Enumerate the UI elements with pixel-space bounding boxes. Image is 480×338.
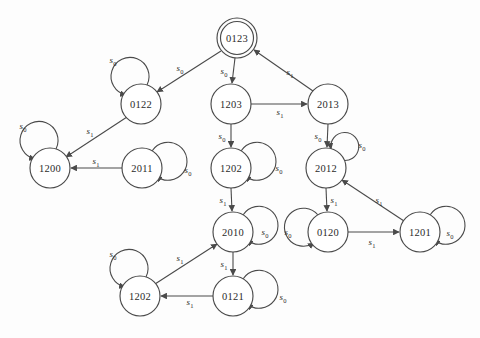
nodes-layer: 0123 0122 1203 2013 1200 2011 [30, 18, 440, 316]
node-1203[interactable]: 1203 [211, 84, 251, 124]
node-0123[interactable]: 0123 [217, 18, 257, 58]
node-1200[interactable]: 1200 [30, 148, 70, 188]
edge-label-1202-2010: s1 [220, 195, 227, 206]
node-label: 1202 [220, 163, 242, 174]
node-2011[interactable]: 2011 [122, 148, 162, 188]
node-1202-mid[interactable]: 1202 [211, 148, 251, 188]
node-label: 1203 [220, 99, 242, 110]
edge-1202b-2010 [155, 244, 217, 284]
selfloop-label-2010: s0 [262, 227, 269, 238]
edge-label-0122-1200: s1 [87, 126, 94, 137]
node-0120[interactable]: 0120 [308, 212, 348, 252]
selfloop-label-0121: s0 [280, 292, 287, 303]
edge-label-2012-0120: s1 [331, 195, 338, 206]
selfloop-label-1202b: s0 [110, 249, 117, 260]
edge-1201-2012 [342, 180, 404, 221]
edge-label-0121-1202b: s1 [187, 297, 194, 308]
edge-label-2013-2012: s0 [315, 131, 322, 142]
selfloop-label-0122: s0 [110, 55, 117, 66]
node-1202-bottom[interactable]: 1202 [120, 276, 160, 316]
state-diagram-canvas: 0123 0122 1203 2013 1200 2011 [0, 0, 480, 338]
node-2012[interactable]: 2012 [306, 148, 346, 188]
node-label: 1200 [39, 163, 61, 174]
edge-2013-0123 [254, 50, 313, 91]
selfloop-label-1202m: s0 [276, 163, 283, 174]
node-label: 0120 [317, 227, 339, 238]
edge-2013-2012 [327, 124, 328, 147]
node-2013[interactable]: 2013 [308, 84, 348, 124]
selfloop-label-0120: s0 [285, 227, 292, 238]
automaton-svg: 0123 0122 1203 2013 1200 2011 [0, 0, 480, 338]
node-label: 1202 [129, 291, 151, 302]
edge-2012-0120 [326, 188, 327, 211]
edge-label-1203-2013: s1 [277, 107, 284, 118]
node-label: 2011 [131, 163, 152, 174]
node-0122[interactable]: 0122 [121, 84, 161, 124]
node-1201[interactable]: 1201 [400, 212, 440, 252]
node-2010[interactable]: 2010 [213, 212, 253, 252]
edge-label-1201-2012: s1 [376, 195, 383, 206]
selfloop-label-2011: s0 [185, 165, 192, 176]
selfloop-label-2012: s0 [359, 140, 366, 151]
edge-label-0123-0122: s0 [177, 63, 184, 74]
node-label: 0123 [226, 33, 248, 44]
edge-0123-0122 [157, 51, 221, 92]
edge-label-2010-0121: s1 [221, 259, 228, 270]
edge-label-2013-0123: s1 [287, 67, 294, 78]
node-label: 2010 [222, 227, 244, 238]
edge-label-0123-1203: s0 [221, 66, 228, 77]
selfloop-label-1200: s0 [20, 121, 27, 132]
node-label: 1201 [409, 227, 431, 238]
node-label: 2013 [317, 99, 339, 110]
edge-label-1202b-2010: s1 [177, 253, 184, 264]
edge-label-1203-1202: s0 [219, 131, 226, 142]
node-label: 2012 [315, 163, 337, 174]
edge-0123-1203 [232, 58, 235, 83]
node-label: 0121 [222, 291, 244, 302]
edge-0122-1200 [66, 117, 127, 157]
edge-label-0120-1201: s1 [369, 237, 376, 248]
selfloop-label-1201: s0 [447, 228, 454, 239]
node-0121[interactable]: 0121 [213, 276, 253, 316]
edge-1202-2010 [231, 188, 232, 211]
node-label: 0122 [130, 99, 152, 110]
edge-label-2011-1200: s1 [93, 156, 100, 167]
